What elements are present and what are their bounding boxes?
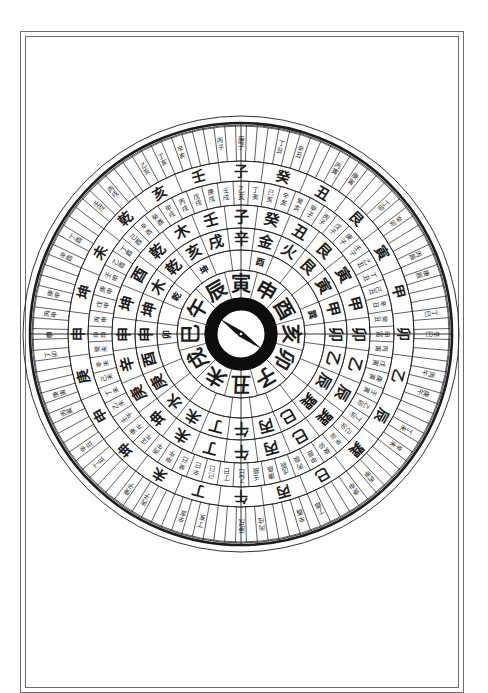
ring-divider [249, 251, 252, 271]
ring-divider [35, 366, 70, 373]
ring-divider [324, 345, 346, 348]
ring-label: 丙 [256, 415, 275, 436]
ring-divider [249, 397, 252, 417]
ring-divider [69, 311, 89, 314]
ring-label: 甲 [322, 300, 343, 319]
ring-divider [255, 506, 258, 542]
ring-divider [282, 432, 291, 453]
ring-label: 辛 [117, 355, 138, 374]
ring-divider [252, 417, 255, 439]
ring-divider [136, 320, 158, 323]
ring-divider [136, 197, 148, 213]
ring-label-char: 辰 [414, 271, 424, 280]
ring-label: 癸 [273, 167, 293, 187]
ring-label-char: 巳 [194, 460, 203, 470]
ring-label-char: 巳 [208, 464, 217, 473]
ring-divider [401, 400, 434, 414]
ring-divider [81, 268, 99, 276]
ring-divider [368, 354, 392, 358]
ring-divider [261, 162, 264, 182]
ring-divider [209, 393, 217, 411]
ring-divider [393, 354, 413, 357]
ring-divider [203, 128, 210, 163]
ring-label-char: 未 [99, 344, 109, 352]
ring-label: 乙 [344, 355, 365, 374]
ring-label-char: 酉 [117, 260, 127, 270]
ring-label-char: 酉 [294, 507, 303, 517]
ring-divider [218, 162, 221, 182]
ring-label: 丁 [207, 415, 226, 436]
ring-label: 坤 [139, 300, 160, 319]
ring-divider [163, 358, 181, 366]
ring-divider [339, 285, 360, 294]
ring-divider [413, 348, 449, 351]
ring-divider [292, 373, 308, 385]
ring-label-char: 申 [49, 310, 59, 318]
ring-divider [113, 317, 136, 320]
ring-label-char: 申 [99, 316, 109, 324]
ring-label: 乾 [169, 290, 183, 303]
ring-divider [362, 229, 378, 241]
ring-label-char: 丑 [367, 287, 377, 296]
ring-divider [104, 229, 120, 241]
ring-divider [44, 264, 78, 276]
ring-label-char: 丑 [373, 316, 382, 324]
ring-divider [346, 317, 369, 320]
ring-label: 艮 [346, 208, 368, 230]
ring-divider [233, 463, 234, 487]
ring-divider [88, 341, 112, 342]
ring-label: 丙 [262, 437, 281, 458]
ring-divider [393, 311, 413, 314]
ring-divider [280, 385, 292, 401]
ring-divider [300, 475, 308, 493]
ring-label-char: 未 [101, 358, 111, 367]
ring-label-char: 子 [305, 210, 315, 220]
ring-label-char: 申 [52, 291, 62, 300]
ring-label-char: 巳 [223, 466, 231, 475]
ring-label-char: 丑 [362, 273, 372, 283]
ring-divider [370, 341, 394, 342]
ring-label: 酉 [128, 264, 151, 286]
ring-label-char: 寅 [373, 344, 383, 352]
ring-divider [300, 174, 308, 192]
ring-divider [32, 339, 68, 340]
ring-label: 丙 [274, 482, 292, 501]
compass-rings: 巳午辰寅申酉亥卯子丑未戌卯乾坤酉巽申坤木乾亥戌辛金火艮寅甲卯乙辰巽巳丙午丁未水庚… [23, 116, 459, 552]
ring-label: 戌 [207, 232, 226, 253]
ring-divider [246, 507, 247, 543]
ring-divider [32, 329, 68, 330]
ring-divider [307, 141, 321, 174]
ring-divider [224, 206, 227, 229]
ring-divider [282, 215, 291, 236]
ring-label: 甲 [389, 283, 408, 301]
ring-divider [236, 507, 237, 543]
ring-divider [414, 329, 450, 330]
ring-label-char: 午 [420, 369, 430, 378]
ring-divider [409, 285, 444, 293]
ring-label: 巳 [289, 424, 311, 447]
ring-divider [261, 183, 265, 207]
ring-label: 酉 [139, 349, 160, 368]
ring-divider [217, 461, 221, 485]
ring-divider [81, 393, 99, 401]
ring-label-char: 卯 [49, 350, 59, 358]
ring-divider [292, 283, 308, 295]
ring-label-char: 丑 [355, 260, 365, 270]
ring-divider [218, 486, 221, 506]
ring-divider [246, 125, 247, 161]
ring-divider [230, 397, 233, 417]
ring-divider [225, 506, 228, 542]
ring-divider [225, 126, 228, 162]
ring-divider [104, 427, 120, 439]
ring-divider [136, 345, 158, 348]
ring-divider [339, 375, 360, 384]
ring-label: 壬 [190, 167, 208, 186]
ring-label-char: 寅 [371, 358, 381, 367]
ring-divider [192, 131, 200, 166]
ring-divider [334, 197, 346, 213]
ring-label: 庚 [128, 382, 151, 404]
ring-divider [382, 393, 400, 401]
ring-divider [255, 126, 258, 162]
ring-divider [233, 181, 234, 205]
